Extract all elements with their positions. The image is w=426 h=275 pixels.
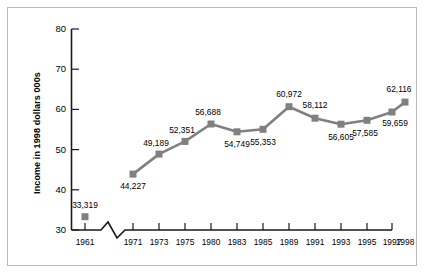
data-point-1973 xyxy=(156,151,163,158)
data-label-1989: 60,972 xyxy=(272,89,306,99)
y-tick-label-30: 30 xyxy=(40,224,66,235)
chart-figure: Income in 1998 dollars 000s 80 70 60 50 … xyxy=(0,0,426,275)
data-label-1995: 57,585 xyxy=(348,128,382,138)
data-point-1961 xyxy=(82,213,89,220)
x-tick-label-1998: 1998 xyxy=(388,237,422,247)
data-point-1971 xyxy=(130,171,137,178)
data-label-1961: 33,319 xyxy=(68,200,102,210)
data-label-1980: 56,688 xyxy=(191,107,225,117)
data-point-1983 xyxy=(234,128,241,135)
y-tick-label-40: 40 xyxy=(40,184,66,195)
data-point-1980 xyxy=(208,121,215,128)
data-label-1971: 44,227 xyxy=(116,181,150,191)
data-point-1991 xyxy=(312,115,319,122)
data-label-1997: 59,659 xyxy=(378,118,412,128)
data-label-1998: 62,116 xyxy=(382,84,416,94)
data-label-1991: 58,112 xyxy=(298,100,332,110)
y-tick-label-50: 50 xyxy=(40,144,66,155)
data-point-1975 xyxy=(182,138,189,145)
data-point-1995 xyxy=(364,117,371,124)
y-tick-label-60: 60 xyxy=(40,103,66,114)
data-point-1997 xyxy=(389,109,396,116)
data-point-1998 xyxy=(402,99,409,106)
data-point-1993 xyxy=(338,121,345,128)
data-label-1985: 55,353 xyxy=(246,137,280,147)
y-tick-label-80: 80 xyxy=(40,23,66,34)
data-point-1985 xyxy=(260,126,267,133)
x-tick-label-1961: 1961 xyxy=(68,237,102,247)
y-tick-label-70: 70 xyxy=(40,63,66,74)
data-label-1975: 52,351 xyxy=(165,125,199,135)
data-point-1989 xyxy=(286,103,293,110)
x-axis-line-with-break xyxy=(72,222,393,238)
data-label-1973: 49,189 xyxy=(139,138,173,148)
